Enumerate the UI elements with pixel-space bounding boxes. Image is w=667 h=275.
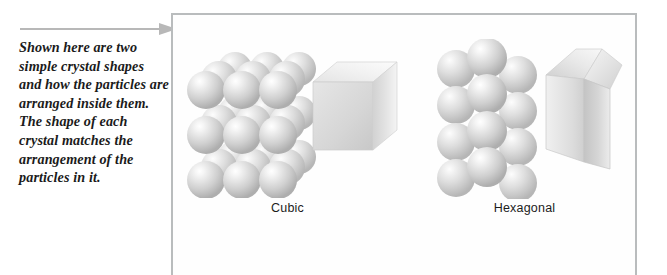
hexagonal-figure-group: Hexagonal: [428, 15, 633, 275]
arrow-right-icon: [20, 22, 177, 36]
cubic-label: Cubic: [175, 201, 400, 215]
cubic-layer-front: [187, 71, 297, 198]
cubic-lattice-svg: [187, 43, 317, 198]
cube-svg: [309, 57, 401, 167]
hexagonal-label: Hexagonal: [422, 201, 627, 215]
hexagonal-lattice-icon: [434, 39, 539, 189]
figure-panel: Cubic: [171, 13, 637, 275]
caption-text: Shown here are two simple crystal shapes…: [19, 38, 169, 187]
hexagonal-lattice-svg: [434, 39, 539, 199]
cubic-lattice-icon: [187, 43, 312, 193]
hexagonal-prism-icon: [540, 37, 630, 187]
cubic-figure-group: Cubic: [183, 15, 408, 275]
cube-icon: [309, 57, 401, 207]
hexagonal-prism-svg: [540, 37, 630, 192]
caption-block: Shown here are two simple crystal shapes…: [19, 38, 169, 187]
arrow-right-svg: [20, 22, 177, 36]
